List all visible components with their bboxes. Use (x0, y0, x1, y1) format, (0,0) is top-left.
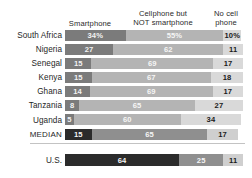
stacked-bar: 156917 (65, 58, 243, 69)
bar-segment-value: 27 (215, 101, 224, 110)
bar-segment-value: 18 (223, 73, 232, 82)
bar-segment-value: 60 (123, 115, 132, 124)
bar-segment-value: 55% (167, 31, 183, 40)
bar-segment-value: 27 (85, 45, 94, 54)
bar-segment-nocell: 34 (181, 114, 242, 125)
bar-segment-value: 15 (74, 130, 83, 139)
bar-segment-cellphone: 55% (126, 30, 224, 41)
bar-segment-smartphone: 64 (65, 154, 179, 166)
stacked-bar: 156718 (65, 72, 243, 83)
bar-segment-nocell: 27 (195, 100, 243, 111)
stacked-bar: 86527 (65, 100, 243, 111)
bar-segment-value: 11 (229, 156, 237, 165)
bar-segment-smartphone: 5 (65, 114, 74, 125)
column-header-nocell-line1: No cell (214, 9, 238, 18)
bar-segment-value: 69 (147, 87, 156, 96)
bar-segment-value: 17 (224, 87, 233, 96)
bar-segment-cellphone: 65 (92, 129, 208, 140)
stacked-bar: 34%55%10% (65, 30, 243, 41)
chart-row: South Africa34%55%10% (0, 29, 252, 42)
bar-segment-nocell: 17 (207, 129, 237, 140)
chart-column-headers: Smartphone Cellphone but NOT smartphone … (0, 6, 252, 30)
row-label: U.S. (0, 153, 62, 168)
bar-segment-cellphone: 60 (74, 114, 181, 125)
row-label: MEDIAN (0, 128, 62, 141)
bar-segment-value: 15 (74, 73, 83, 82)
bar-segment-smartphone: 27 (65, 44, 113, 55)
row-label: South Africa (0, 29, 62, 42)
stacked-bar: 146917 (65, 86, 243, 97)
chart-row: Nigeria276211 (0, 43, 252, 56)
chart-row: Uganda56034 (0, 113, 252, 126)
row-label: Nigeria (0, 43, 62, 56)
column-header-cellphone-not-smartphone: Cellphone but NOT smartphone (124, 9, 202, 27)
column-header-cellphone-line1: Cellphone but (139, 9, 187, 18)
bar-segment-nocell: 17 (213, 86, 243, 97)
stacked-bar: 56034 (65, 114, 243, 125)
chart-row: U.S.642511 (0, 153, 252, 168)
bar-segment-value: 64 (118, 156, 127, 165)
chart-rows: South Africa34%55%10%Nigeria276211Senega… (0, 29, 252, 169)
column-header-cellphone-line2: NOT smartphone (133, 18, 193, 27)
bar-segment-value: 34 (207, 115, 216, 124)
stacked-bar-chart: Smartphone Cellphone but NOT smartphone … (0, 0, 252, 178)
bar-segment-value: 17 (218, 130, 227, 139)
bar-segment-smartphone: 34% (65, 30, 126, 41)
bar-segment-nocell: 10% (223, 30, 241, 41)
bar-segment-smartphone: 8 (65, 100, 79, 111)
bar-segment-cellphone: 65 (79, 100, 195, 111)
chart-row: Ghana146917 (0, 85, 252, 98)
bar-segment-value: 25 (197, 156, 206, 165)
row-label: Senegal (0, 57, 62, 70)
bar-segment-value: 62 (164, 45, 173, 54)
bar-segment-smartphone: 15 (65, 72, 92, 83)
bar-segment-smartphone: 15 (65, 129, 92, 140)
column-header-no-cell-phone: No cell phone (203, 9, 249, 27)
bar-segment-value: 67 (147, 73, 156, 82)
stacked-bar: 642511 (65, 154, 243, 166)
chart-row: Senegal156917 (0, 57, 252, 70)
bar-segment-value: 69 (148, 59, 157, 68)
bar-segment-nocell: 18 (211, 72, 243, 83)
bar-segment-value: 10% (225, 31, 241, 40)
bar-segment-value: 34% (88, 31, 104, 40)
stacked-bar: 276211 (65, 44, 243, 55)
bar-segment-nocell: 11 (223, 44, 243, 55)
bar-segment-value: 15 (74, 59, 83, 68)
row-label: Uganda (0, 113, 62, 126)
column-header-smartphone: Smartphone (60, 19, 120, 28)
bar-segment-smartphone: 15 (65, 58, 91, 69)
chart-row: Kenya156718 (0, 71, 252, 84)
chart-row: Tanzania86527 (0, 99, 252, 112)
bar-segment-value: 14 (73, 87, 82, 96)
bar-segment-value: 65 (145, 130, 154, 139)
bar-segment-cellphone: 25 (179, 154, 224, 166)
section-divider (30, 143, 245, 144)
bar-segment-nocell: 11 (223, 154, 243, 166)
row-label: Ghana (0, 85, 62, 98)
bar-segment-cellphone: 62 (113, 44, 223, 55)
row-label: Kenya (0, 71, 62, 84)
bar-segment-smartphone: 14 (65, 86, 90, 97)
bar-segment-cellphone: 67 (92, 72, 211, 83)
chart-row: MEDIAN156517 (0, 128, 252, 141)
column-header-nocell-line2: phone (215, 18, 237, 27)
bar-segment-value: 11 (229, 45, 237, 54)
bar-segment-value: 17 (224, 59, 233, 68)
row-label: Tanzania (0, 99, 62, 112)
bar-segment-cellphone: 69 (90, 86, 213, 97)
bar-segment-value: 65 (133, 101, 142, 110)
bar-segment-cellphone: 69 (91, 58, 213, 69)
bar-segment-value: 8 (70, 101, 74, 110)
bar-segment-nocell: 17 (213, 58, 243, 69)
stacked-bar: 156517 (65, 129, 243, 140)
bar-segment-value: 5 (67, 115, 71, 124)
